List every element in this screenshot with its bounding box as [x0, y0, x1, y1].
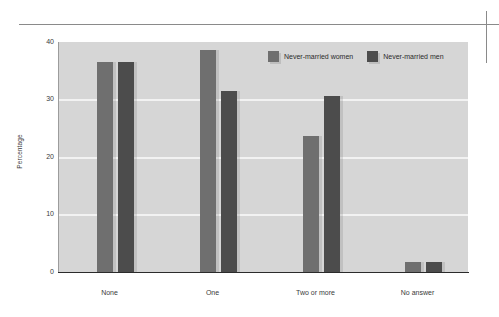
y-tick-label-20: 20 — [20, 153, 54, 161]
legend-swatch-icon-men — [367, 51, 378, 62]
bar-none-never-married-women — [97, 62, 113, 272]
bar-one-never-married-men — [221, 91, 237, 272]
y-tick-label-30: 30 — [20, 95, 54, 103]
legend-item-never-married-men: Never-married men — [367, 51, 443, 62]
legend-label-men: Never-married men — [383, 52, 443, 61]
plot-area — [58, 42, 468, 272]
bar-two-or-more-never-married-men — [324, 96, 340, 272]
y-axis: 40 30 20 10 0 Percentage — [10, 0, 54, 317]
bar-two-or-more-never-married-women — [303, 136, 319, 272]
bar-no-answer-never-married-women — [405, 262, 421, 272]
bar-group-one — [161, 42, 264, 272]
bar-no-answer-never-married-men — [426, 262, 442, 272]
y-axis-title: Percentage — [16, 112, 23, 192]
bar-chart: 40 30 20 10 0 Percentage None One Two or… — [0, 0, 499, 317]
x-tick-label-one: One — [161, 288, 264, 297]
bar-group-two-or-more — [264, 42, 367, 272]
y-axis-line — [58, 42, 59, 273]
bar-group-none — [58, 42, 161, 272]
legend-item-never-married-women: Never-married women — [268, 51, 353, 62]
y-tick-label-0: 0 — [20, 268, 54, 276]
bar-one-never-married-women — [200, 50, 216, 272]
bar-group-no-answer — [366, 42, 469, 272]
chart-legend: Never-married women Never-married men — [268, 51, 444, 62]
x-tick-label-no-answer: No answer — [366, 288, 469, 297]
bar-none-never-married-men — [118, 62, 134, 272]
y-tick-label-40: 40 — [20, 38, 54, 46]
x-tick-label-none: None — [58, 288, 161, 297]
legend-label-women: Never-married women — [284, 52, 353, 61]
y-tick-label-10: 10 — [20, 210, 54, 218]
legend-swatch-icon-women — [268, 51, 279, 62]
x-axis-line — [58, 272, 469, 273]
x-tick-label-two-or-more: Two or more — [264, 288, 367, 297]
